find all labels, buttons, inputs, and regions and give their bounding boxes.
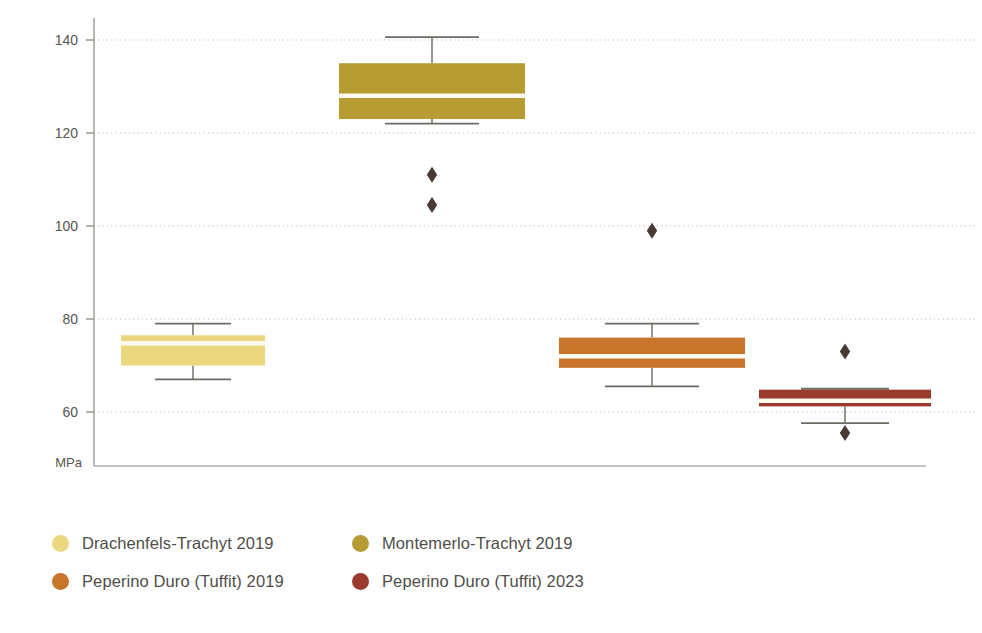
box-group: [759, 344, 931, 441]
outlier-marker: [427, 197, 437, 213]
box-body: [121, 335, 265, 365]
box-group: [339, 37, 525, 213]
legend-label: Peperino Duro (Tuffit) 2019: [82, 572, 284, 591]
legend-row-1: Drachenfels-Trachyt 2019 Montemerlo-Trac…: [52, 524, 752, 562]
outlier-marker: [840, 344, 850, 360]
box-group: [559, 223, 745, 387]
y-tick-label: 120: [55, 125, 79, 141]
legend-item-montemerlo-trachyt-2019[interactable]: Montemerlo-Trachyt 2019: [352, 524, 732, 562]
outlier-marker: [647, 223, 657, 239]
legend-label: Montemerlo-Trachyt 2019: [382, 534, 573, 553]
legend-item-peperino-duro-tuffit-2023[interactable]: Peperino Duro (Tuffit) 2023: [352, 562, 732, 600]
plot-area: 6080100120140 MPa: [0, 0, 982, 500]
box-group: [121, 324, 265, 380]
legend-swatch-icon: [352, 535, 369, 552]
legend-swatch-icon: [52, 535, 69, 552]
box-groups: [121, 37, 931, 441]
y-axis-tick-labels: 6080100120140: [55, 32, 79, 420]
y-axis-tickmarks: [86, 40, 94, 412]
box-body: [339, 63, 525, 119]
y-tick-label: 60: [62, 404, 78, 420]
legend-item-drachenfels-trachyt-2019[interactable]: Drachenfels-Trachyt 2019: [52, 524, 352, 562]
legend-label: Drachenfels-Trachyt 2019: [82, 534, 274, 553]
y-tick-label: 100: [55, 218, 79, 234]
outlier-marker: [840, 425, 850, 441]
chart-legend: Drachenfels-Trachyt 2019 Montemerlo-Trac…: [52, 524, 752, 600]
box-body: [559, 338, 745, 368]
y-tick-label: 140: [55, 32, 79, 48]
legend-swatch-icon: [52, 573, 69, 590]
y-axis-unit-label: MPa: [55, 455, 83, 470]
y-tick-label: 80: [62, 311, 78, 327]
plot-svg: 6080100120140 MPa: [0, 0, 982, 500]
legend-label: Peperino Duro (Tuffit) 2023: [382, 572, 584, 591]
outlier-marker: [427, 167, 437, 183]
legend-item-peperino-duro-tuffit-2019[interactable]: Peperino Duro (Tuffit) 2019: [52, 562, 352, 600]
box-body: [759, 390, 931, 407]
box-plot-chart: 6080100120140 MPa Drachenfels-Trachyt 20…: [0, 0, 982, 633]
legend-row-2: Peperino Duro (Tuffit) 2019 Peperino Dur…: [52, 562, 752, 600]
legend-swatch-icon: [352, 573, 369, 590]
